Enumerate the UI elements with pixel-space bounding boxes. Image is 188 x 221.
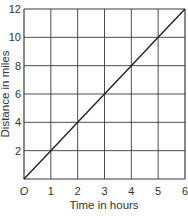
x-tick-label: 1 bbox=[48, 185, 54, 197]
x-tick-label: 4 bbox=[128, 185, 134, 197]
y-tick-label: 4 bbox=[15, 116, 21, 128]
distance-time-chart: O123456 24681012 Time in hours Distance … bbox=[0, 0, 188, 221]
y-axis-label: Distance in miles bbox=[0, 50, 11, 137]
y-tick-label: 12 bbox=[9, 3, 21, 15]
y-tick-label: 10 bbox=[9, 31, 21, 43]
x-axis-ticks: O123456 bbox=[20, 185, 188, 197]
x-tick-label: 3 bbox=[101, 185, 107, 197]
x-tick-label: 5 bbox=[155, 185, 161, 197]
x-tick-label: 6 bbox=[182, 185, 188, 197]
y-tick-label: 2 bbox=[15, 145, 21, 157]
origin-label: O bbox=[20, 185, 29, 197]
x-axis-label: Time in hours bbox=[69, 199, 138, 211]
y-tick-label: 8 bbox=[15, 60, 21, 72]
x-tick-label: 2 bbox=[75, 185, 81, 197]
y-tick-label: 6 bbox=[15, 88, 21, 100]
